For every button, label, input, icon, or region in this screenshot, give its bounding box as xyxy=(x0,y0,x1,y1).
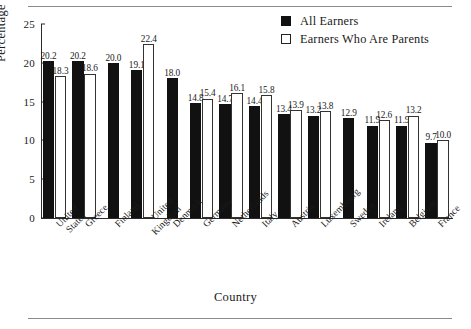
bar-earners-who-are-parents: 18.6 xyxy=(84,74,95,218)
y-tick-label: 25 xyxy=(24,18,41,30)
bar-group: 11.913.2 xyxy=(394,24,423,218)
bar-value-label: 12.9 xyxy=(341,109,357,118)
bar-value-label: 15.4 xyxy=(200,89,216,98)
bar-group: 18.0 xyxy=(159,24,188,218)
plot-area: 0510152025 20.218.320.218.620.019.122.41… xyxy=(41,24,453,218)
y-tick-label: 15 xyxy=(24,96,41,108)
y-tick-label: 0 xyxy=(29,212,41,224)
bar-group: 20.218.6 xyxy=(70,24,99,218)
bar-value-label: 20.2 xyxy=(70,52,86,61)
y-tick-label: 10 xyxy=(24,134,41,146)
bar-earners-who-are-parents: 13.8 xyxy=(320,111,331,218)
chart-legend: All Earners Earners Who Are Parents xyxy=(281,12,429,48)
bar-group: 13.213.8 xyxy=(306,24,335,218)
bar-earners-who-are-parents: 16.1 xyxy=(231,93,242,218)
bar-earners-who-are-parents: 22.4 xyxy=(143,44,154,218)
y-tick-label: 5 xyxy=(29,173,41,185)
bar-earners-who-are-parents: 10.0 xyxy=(437,140,448,218)
bar-value-label: 18.6 xyxy=(82,64,98,73)
y-axis-title: Percentage xyxy=(0,4,9,62)
bar-group: 14.716.1 xyxy=(218,24,247,218)
bar-group: 13.413.9 xyxy=(276,24,305,218)
bar-all-earners: 19.1 xyxy=(131,70,142,218)
bar-value-label: 10.0 xyxy=(435,131,451,140)
bar-value-label: 13.9 xyxy=(288,101,304,110)
bar-all-earners: 20.2 xyxy=(72,61,83,218)
open-square-icon xyxy=(281,34,291,44)
x-axis-title: Country xyxy=(0,290,471,305)
bar-value-label: 13.8 xyxy=(317,102,333,111)
bar-value-label: 15.8 xyxy=(259,86,275,95)
bar-earners-who-are-parents: 13.2 xyxy=(408,116,419,218)
bar-all-earners: 20.2 xyxy=(43,61,54,218)
bar-group: 20.218.3 xyxy=(41,24,70,218)
bar-value-label: 20.2 xyxy=(41,52,57,61)
top-divider-rule xyxy=(28,6,452,7)
bar-group: 19.122.4 xyxy=(129,24,158,218)
legend-label: Earners Who Are Parents xyxy=(300,32,429,47)
bar-value-label: 16.1 xyxy=(229,84,245,93)
bar-earners-who-are-parents: 13.9 xyxy=(290,110,301,218)
legend-item-all-earners: All Earners xyxy=(281,12,429,30)
bar-all-earners: 13.4 xyxy=(278,114,289,218)
bar-value-label: 12.6 xyxy=(376,111,392,120)
bar-value-label: 13.2 xyxy=(406,106,422,115)
bar-earners-who-are-parents: 15.4 xyxy=(202,99,213,219)
bar-earners-who-are-parents: 18.3 xyxy=(55,76,66,218)
figure-container: Percentage Country 0510152025 20.218.320… xyxy=(0,0,471,329)
bar-all-earners: 20.0 xyxy=(108,63,119,218)
bar-group: 20.0 xyxy=(100,24,129,218)
bar-value-label: 18.3 xyxy=(53,67,69,76)
legend-item-earners-who-are-parents: Earners Who Are Parents xyxy=(281,30,429,48)
bar-value-label: 22.4 xyxy=(141,35,157,44)
bottom-divider-rule xyxy=(28,318,452,319)
legend-label: All Earners xyxy=(300,14,359,29)
filled-square-icon xyxy=(281,16,291,26)
bar-group: 11.912.6 xyxy=(365,24,394,218)
bar-group: 9.710.0 xyxy=(424,24,453,218)
bar-earners-who-are-parents: 12.6 xyxy=(379,120,390,218)
bar-group: 14.815.4 xyxy=(188,24,217,218)
bar-value-label: 20.0 xyxy=(105,54,121,63)
y-tick-label: 20 xyxy=(24,57,41,69)
bar-value-label: 18.0 xyxy=(164,69,180,78)
